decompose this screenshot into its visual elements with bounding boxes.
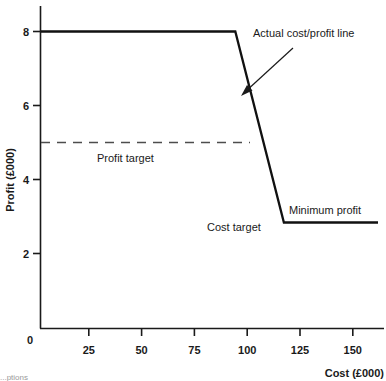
y-tick-label-6: 6 (23, 100, 29, 112)
actual-line-arrow-shaft (245, 48, 293, 92)
cropped-caption-fragment: ...ptions (0, 373, 28, 381)
x-tick-label-75: 75 (188, 344, 200, 356)
x-tick-label-150: 150 (344, 344, 362, 356)
y-tick-label-8: 8 (23, 26, 29, 38)
chart-canvas: 8 6 4 2 0 25 50 75 100 125 150 Profit (£… (0, 0, 386, 381)
series-actual-cost-profit-line (41, 32, 378, 223)
annotation-actual-line: Actual cost/profit line (241, 27, 355, 96)
cost-target-label: Cost target (207, 221, 261, 233)
x-tick-label-25: 25 (83, 344, 95, 356)
profit-cost-line-chart: 8 6 4 2 0 25 50 75 100 125 150 Profit (£… (0, 0, 386, 381)
y-tick-group (33, 32, 40, 254)
minimum-profit-label: Minimum profit (289, 204, 361, 216)
x-axis-title: Cost (£000) (325, 367, 385, 379)
y-tick-label-group: 8 6 4 2 0 (23, 26, 33, 346)
x-tick-label-group: 25 50 75 100 125 150 (83, 344, 362, 356)
y-axis-title: Profit (£000) (4, 148, 16, 212)
x-tick-label-50: 50 (135, 344, 147, 356)
x-tick-label-100: 100 (238, 344, 256, 356)
y-tick-label-0: 0 (27, 334, 33, 346)
x-tick-label-125: 125 (291, 344, 309, 356)
y-tick-label-2: 2 (23, 248, 29, 260)
profit-target-label: Profit target (97, 152, 154, 164)
axis-group (40, 6, 384, 329)
actual-cost-profit-line-label: Actual cost/profit line (253, 27, 355, 39)
y-tick-label-4: 4 (23, 174, 30, 186)
